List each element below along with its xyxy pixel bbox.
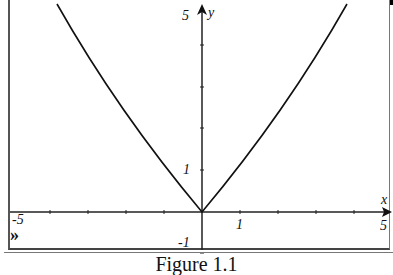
menu-chevron-icon[interactable]: »	[10, 226, 13, 244]
figure-caption: Figure 1.1	[0, 254, 393, 274]
y-tick-label-neg1: -1	[178, 236, 190, 250]
y-tick-label-5: 5	[182, 9, 189, 23]
x-tick-label-1: 1	[236, 218, 243, 232]
x-tick-label-neg5: -5	[12, 213, 24, 227]
y-tick-label-1: 1	[183, 163, 190, 177]
y-axis-label: y	[208, 6, 214, 20]
x-tick-label-5: 5	[380, 219, 387, 233]
x-axis-label: x	[381, 193, 387, 207]
